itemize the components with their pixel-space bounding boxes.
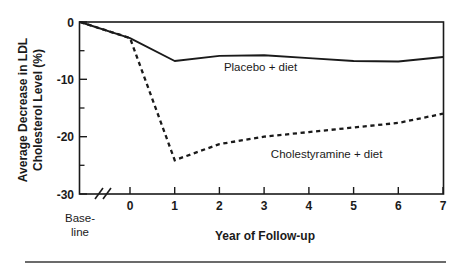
y-tick-label-0: 0 [67,16,74,30]
x-tick-label-1: 1 [171,199,178,213]
x-tick-label-7: 7 [440,199,447,213]
y-tick-label-minus30: -30 [57,188,75,202]
series-label-cholestyramine: Cholestyramine + diet [271,148,383,160]
y-axis-title: Average Decrease in LDL Cholesterol Leve… [16,38,45,182]
baseline-label-line1: Base- [65,212,95,224]
x-tick-label-6: 6 [395,199,402,213]
baseline-label-line2: line [71,226,89,238]
line-chart: 0 -10 -20 -30 Average Decrease in LDL Ch… [0,0,469,271]
x-tick-label-0: 0 [127,199,134,213]
x-tick-label-2: 2 [216,199,223,213]
y-tick-label-minus20: -20 [57,130,75,144]
series-line-cholestyramine [80,22,443,160]
figure-container: 0 -10 -20 -30 Average Decrease in LDL Ch… [0,0,469,271]
x-axis-ticks [130,187,443,194]
y-axis-title-line2: Cholesterol Level (%) [31,49,45,171]
series-label-placebo: Placebo + diet [224,61,298,73]
x-tick-label-4: 4 [306,199,313,213]
y-axis-ticks [80,22,88,194]
x-tick-label-3: 3 [261,199,268,213]
x-axis-title: Year of Follow-up [215,229,315,243]
x-axis-tick-labels: 0 1 2 3 4 5 6 7 [127,199,447,213]
x-tick-label-baseline: Base- line [65,212,95,238]
y-axis-tick-labels: 0 -10 -20 -30 [57,16,75,202]
series-line-placebo [80,22,443,62]
y-tick-label-minus10: -10 [57,73,75,87]
y-axis-title-line1: Average Decrease in LDL [16,38,30,182]
x-tick-label-5: 5 [350,199,357,213]
